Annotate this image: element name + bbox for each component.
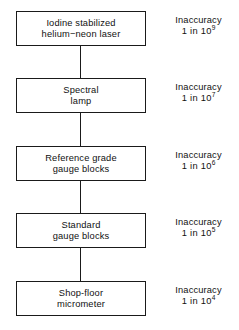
accuracy-value-4: 1 in 105 — [158, 228, 239, 239]
node-text-line-2: gauge blocks — [53, 164, 110, 175]
accuracy-prefix-2: 1 in 10 — [182, 93, 212, 103]
accuracy-label-3: Inaccuracy — [158, 150, 239, 161]
node-text-line-1: Spectral — [63, 85, 98, 96]
accuracy-value-5: 1 in 104 — [158, 296, 239, 307]
accuracy-prefix-5: 1 in 10 — [182, 296, 212, 306]
node-text-line-2: helium−neon laser — [42, 29, 121, 40]
accuracy-annotation-2: Inaccuracy 1 in 107 — [158, 82, 239, 105]
accuracy-prefix-3: 1 in 10 — [182, 161, 212, 171]
accuracy-annotation-1: Inaccuracy 1 in 109 — [158, 15, 239, 38]
node-text-line-1: Reference grade — [45, 153, 117, 164]
chain-stage-4: Standard gauge blocks Inaccuracy 1 in 10… — [0, 213, 239, 248]
chain-stage-5: Shop-floor micrometer Inaccuracy 1 in 10… — [0, 281, 239, 316]
accuracy-exponent-2: 7 — [212, 91, 216, 98]
accuracy-label-5: Inaccuracy — [158, 285, 239, 296]
accuracy-label-2: Inaccuracy — [158, 82, 239, 93]
connector-4-to-5 — [80, 248, 81, 281]
connector-3-to-4 — [80, 181, 81, 213]
connector-2-to-3 — [80, 113, 81, 146]
accuracy-annotation-4: Inaccuracy 1 in 105 — [158, 217, 239, 240]
node-text-line-2: lamp — [71, 96, 92, 107]
node-box-reference-grade-gauge-blocks: Reference grade gauge blocks — [16, 146, 146, 181]
node-text-line-1: Iodine stabilized — [46, 18, 115, 29]
node-box-standard-gauge-blocks: Standard gauge blocks — [16, 213, 146, 248]
accuracy-exponent-1: 9 — [212, 24, 216, 31]
accuracy-exponent-4: 5 — [212, 226, 216, 233]
chain-stage-3: Reference grade gauge blocks Inaccuracy … — [0, 146, 239, 181]
accuracy-prefix-1: 1 in 10 — [182, 26, 212, 36]
node-text-line-2: micrometer — [57, 299, 105, 310]
accuracy-label-4: Inaccuracy — [158, 217, 239, 228]
node-box-shop-floor-micrometer: Shop-floor micrometer — [16, 281, 146, 316]
accuracy-value-3: 1 in 106 — [158, 161, 239, 172]
node-box-spectral-lamp: Spectral lamp — [16, 78, 146, 113]
accuracy-prefix-4: 1 in 10 — [182, 228, 212, 238]
accuracy-value-2: 1 in 107 — [158, 93, 239, 104]
node-text-line-2: gauge blocks — [53, 231, 110, 242]
node-box-iodine-stabilized-laser: Iodine stabilized helium−neon laser — [16, 11, 146, 46]
accuracy-annotation-5: Inaccuracy 1 in 104 — [158, 285, 239, 308]
accuracy-exponent-5: 4 — [212, 294, 216, 301]
chain-stage-1: Iodine stabilized helium−neon laser Inac… — [0, 11, 239, 46]
accuracy-exponent-3: 6 — [212, 159, 216, 166]
chain-stage-2: Spectral lamp Inaccuracy 1 in 107 — [0, 78, 239, 113]
accuracy-value-1: 1 in 109 — [158, 26, 239, 37]
traceability-chain-diagram: Iodine stabilized helium−neon laser Inac… — [0, 0, 239, 330]
accuracy-annotation-3: Inaccuracy 1 in 106 — [158, 150, 239, 173]
node-text-line-1: Shop-floor — [59, 288, 103, 299]
node-text-line-1: Standard — [62, 220, 101, 231]
accuracy-label-1: Inaccuracy — [158, 15, 239, 26]
connector-1-to-2 — [80, 46, 81, 78]
